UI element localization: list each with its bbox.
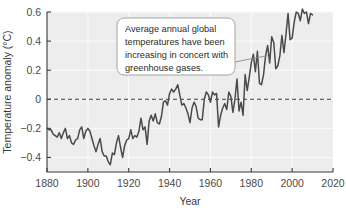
x-tick-label: 1880 — [35, 177, 59, 189]
x-tick-label: 1940 — [158, 177, 182, 189]
x-tick-label: 2000 — [280, 177, 304, 189]
y-tick-label: 0.6 — [26, 6, 41, 18]
y-tick-label: −0.2 — [20, 122, 41, 134]
x-tick-label: 2020 — [321, 177, 345, 189]
callout-line-2: temperatures have been — [125, 37, 225, 47]
callout-line-4: greenhouse gases. — [125, 63, 203, 73]
y-tick-label: −0.4 — [20, 151, 41, 163]
x-tick-label: 1900 — [76, 177, 100, 189]
x-tick-label: 1960 — [199, 177, 223, 189]
y-tick-label: 0 — [35, 93, 41, 105]
x-axis-title: Year — [179, 195, 201, 207]
callout-line-3: increasing in concert with — [125, 50, 228, 60]
y-axis-title: Temperature anomaly (°C) — [1, 30, 13, 153]
temperature-anomaly-chart: −0.4−0.200.20.40.6 188019001920194019601… — [0, 0, 346, 212]
warming-callout: Average annual global temperatures have … — [117, 18, 235, 75]
y-tick-label: 0.2 — [26, 64, 41, 76]
x-tick-label: 1980 — [240, 177, 264, 189]
y-tick-label: 0.4 — [26, 35, 41, 47]
callout-line-1: Average annual global — [125, 24, 216, 34]
x-tick-label: 1920 — [117, 177, 141, 189]
